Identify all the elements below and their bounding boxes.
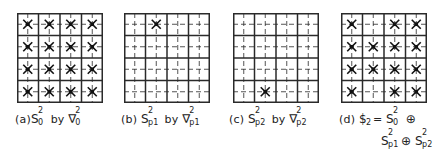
symbol-sp1: S2p1: [381, 134, 401, 148]
symbol-nabla-p2: ∇2p2: [289, 112, 311, 126]
grid-c: [233, 13, 319, 103]
symbol-s0: S20: [31, 112, 47, 126]
panel-d-grid: [341, 13, 427, 103]
symbol-sp1: S2p1: [141, 112, 161, 126]
caption-d-line1: (d) $2= S20 ⊕: [339, 112, 416, 126]
caption-prefix: (a): [15, 113, 31, 126]
symbol-s0: S20: [386, 112, 402, 126]
panel-c-grid: [233, 13, 319, 103]
equals-sign: =: [373, 113, 382, 126]
symbol-sp2: S2p2: [248, 112, 268, 126]
grid-d: [341, 13, 427, 103]
direct-sum-operator: ⊕: [401, 134, 411, 148]
panel-a-grid: [17, 13, 103, 103]
caption-by: by: [165, 113, 179, 126]
caption-prefix: (c): [229, 113, 244, 126]
grid-a: [17, 13, 103, 103]
panel-b-grid: [124, 13, 210, 103]
grid-b: [124, 13, 210, 103]
caption-prefix: (b): [121, 113, 137, 126]
symbol-sp2: S2p2: [415, 134, 435, 148]
direct-sum-operator: ⊕: [406, 112, 416, 126]
symbol-nabla-p1: ∇2p1: [182, 112, 204, 126]
caption-c: (c) S2p2 by ∇2p2: [229, 112, 311, 126]
caption-by: by: [272, 113, 286, 126]
symbol-nabla0: ∇20: [68, 112, 86, 126]
caption-prefix: (d): [339, 113, 355, 126]
caption-d-line2: S2p1⊕ S2p2: [381, 134, 435, 148]
symbol-script-s2: $2: [359, 112, 373, 126]
caption-by: by: [51, 113, 65, 126]
caption-a: (a)S20 by ∇20: [15, 112, 86, 126]
caption-b: (b) S2p1 by ∇2p1: [121, 112, 204, 126]
